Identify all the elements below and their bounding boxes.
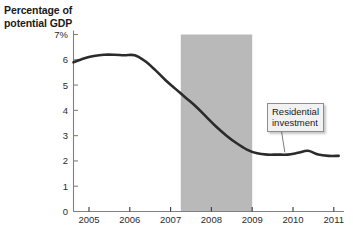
svg-text:2011: 2011	[324, 214, 344, 225]
svg-text:2007: 2007	[160, 214, 181, 225]
svg-text:6: 6	[63, 54, 68, 65]
svg-text:2008: 2008	[201, 214, 222, 225]
svg-text:2010: 2010	[282, 214, 303, 225]
svg-text:3: 3	[63, 130, 68, 141]
svg-text:2006: 2006	[119, 214, 140, 225]
svg-text:2005: 2005	[78, 214, 99, 225]
x-axis-ticks: 2005200620072008200920102011	[78, 207, 344, 225]
svg-text:5: 5	[63, 80, 68, 91]
svg-text:1: 1	[63, 181, 68, 192]
annotation-label-residential-investment: Residential investment	[267, 103, 324, 132]
annotation-line-2: investment	[272, 117, 319, 128]
svg-text:0: 0	[63, 206, 68, 217]
recession-band	[181, 35, 252, 212]
y-axis-ticks: 01234567%	[54, 29, 78, 217]
svg-text:4: 4	[63, 105, 68, 116]
svg-text:2009: 2009	[242, 214, 263, 225]
svg-text:2: 2	[63, 155, 68, 166]
chart-figure: Percentage of potential GDP 01234567% 20…	[0, 0, 353, 226]
annotation-line-1: Residential	[272, 106, 319, 117]
svg-text:7%: 7%	[54, 29, 68, 40]
